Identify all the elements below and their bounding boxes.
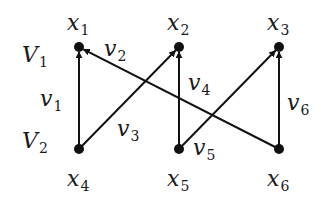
node-x2: [174, 42, 184, 52]
node-label-x1: x1: [67, 10, 89, 38]
edge-label-v3: v3: [117, 116, 139, 144]
edge-label-v2: v2: [104, 36, 126, 64]
node-label-x5: x5: [167, 166, 189, 194]
edge-label-v5: v5: [193, 135, 215, 163]
edge-label-v6: v6: [287, 90, 309, 118]
node-label-x6: x6: [267, 166, 289, 194]
bipartite-graph-diagram: v1v2v3v4v5v6x1x2x3x4x5x6V1V2: [0, 0, 321, 199]
node-label-x4: x4: [67, 166, 89, 194]
edges-layer: [79, 49, 279, 149]
node-label-x3: x3: [267, 10, 289, 38]
partition-label-V2: V2: [22, 128, 48, 156]
node-x3: [274, 42, 284, 52]
edge-label-v1: v1: [40, 86, 62, 114]
node-x6: [274, 144, 284, 154]
node-x5: [174, 144, 184, 154]
edge-v2: [83, 49, 279, 149]
partition-label-V1: V1: [22, 42, 48, 70]
node-x4: [74, 144, 84, 154]
labels-layer: v1v2v3v4v5v6x1x2x3x4x5x6V1V2: [22, 10, 309, 194]
node-label-x2: x2: [167, 10, 189, 38]
node-x1: [74, 42, 84, 52]
edge-label-v4: v4: [188, 70, 210, 98]
